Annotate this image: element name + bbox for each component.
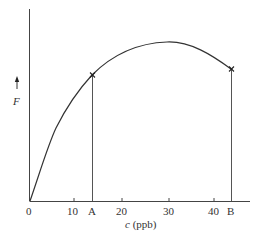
x-tick-label-30: 30 (163, 205, 175, 217)
x-tick-label-20: 20 (116, 205, 128, 217)
x-tick-label-0: 0 (26, 205, 32, 217)
x-tick-label-10: 10 (67, 205, 79, 217)
chart: F 0 10 A 20 30 40 B c (ppb) (0, 0, 264, 241)
x-axis-label: c (ppb) (125, 218, 157, 231)
x-tick-label-b: B (227, 205, 234, 217)
x-tick-label-40: 40 (208, 205, 220, 217)
x-tick-label-a: A (88, 205, 96, 217)
y-axis-label: F (12, 95, 20, 107)
x-axis-unit: (ppb) (130, 218, 157, 231)
up-arrow-icon (15, 76, 19, 82)
f-curve (30, 42, 231, 201)
